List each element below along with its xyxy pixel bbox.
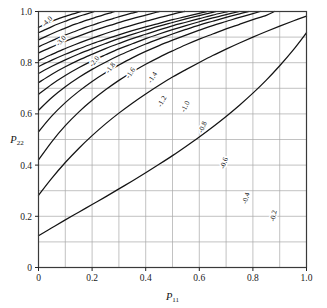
- y-tick-label: 1.0: [20, 7, 32, 17]
- contour-plot-svg: 00.20.40.60.81.0 00.20.40.60.81.0 -4.0-4…: [0, 0, 327, 308]
- contour-plot-figure: 00.20.40.60.81.0 00.20.40.60.81.0 -4.0-4…: [0, 0, 327, 308]
- x-axis-title-subscript: 11: [172, 296, 179, 304]
- x-tick-label: 0: [36, 273, 41, 283]
- figure-background: [0, 0, 327, 308]
- y-tick-label: 0.8: [20, 58, 32, 68]
- x-tick-label: 0.2: [86, 273, 98, 283]
- x-tick-label: 1.0: [301, 273, 313, 283]
- y-axis-title-subscript: 22: [17, 139, 25, 147]
- y-tick-label: 0.6: [20, 109, 32, 119]
- x-tick-label: 0.6: [193, 273, 205, 283]
- x-tick-label: 0.4: [140, 273, 152, 283]
- x-tick-label: 0.8: [247, 273, 259, 283]
- y-tick-label: 0.4: [20, 161, 32, 171]
- y-tick-label: 0.2: [20, 212, 32, 222]
- y-tick-label: 0: [27, 263, 32, 273]
